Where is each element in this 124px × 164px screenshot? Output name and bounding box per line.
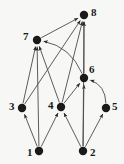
node-label-5: 5 [112,101,118,112]
node-label-7: 7 [23,31,29,42]
node-2[interactable] [79,147,87,155]
node-label-6: 6 [89,64,95,75]
node-5[interactable] [102,104,110,112]
edge-1-to-7 [37,47,39,146]
edge-5-to-6 [90,80,105,103]
graph-canvas [0,0,124,164]
node-label-3: 3 [9,101,15,112]
node-4[interactable] [57,103,65,111]
node-label-2: 2 [90,147,96,158]
edge-1-to-4 [41,113,58,147]
edge-3-to-7 [23,47,36,104]
edge-4-to-7 [39,46,59,102]
edge-7-to-8 [41,18,78,38]
node-1[interactable] [35,147,43,155]
node-label-8: 8 [91,7,97,18]
node-3[interactable] [18,104,26,112]
node-label-1: 1 [27,147,33,158]
node-7[interactable] [33,36,41,44]
edge-4-to-8 [62,22,82,103]
edge-2-to-5 [85,114,103,147]
edge-1-to-3 [25,114,38,146]
graph-diagram: 12345678 [0,0,124,164]
node-6[interactable] [80,74,88,82]
node-label-4: 4 [48,100,54,111]
edge-2-to-4 [64,113,81,147]
node-8[interactable] [80,11,88,19]
